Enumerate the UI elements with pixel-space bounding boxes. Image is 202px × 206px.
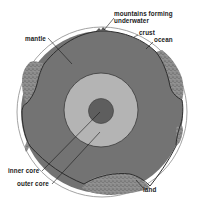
label-inner-core: inner core: [8, 167, 39, 174]
label-ocean: ocean: [154, 36, 173, 43]
label-mantle: mantle: [25, 35, 46, 42]
label-underwater: underwater: [114, 17, 149, 24]
label-outer-core: outer core: [17, 180, 49, 187]
label-land: land: [143, 186, 156, 193]
earth-cross-section-diagram: mountains forming underwater crust ocean…: [0, 0, 202, 206]
label-mountains-forming: mountains forming: [114, 10, 173, 17]
diagram-canvas: [0, 0, 202, 206]
label-crust: crust: [139, 29, 155, 36]
